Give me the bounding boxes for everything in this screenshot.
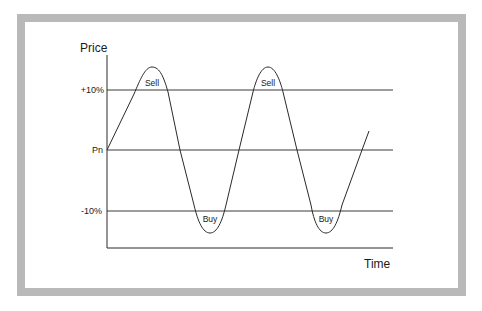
buy-annotation-1: Buy [203,214,218,224]
lower-level-label: -10% [81,206,102,216]
price-cycle-diagram: Price Time +10% Pn -10% Sell Sell Buy Bu… [0,0,482,311]
sell-annotation-1: Sell [145,78,159,88]
x-axis-label: Time [364,257,391,271]
sell-annotation-2: Sell [261,78,275,88]
y-axis-label: Price [80,41,108,55]
upper-level-label: +10% [81,85,104,95]
middle-level-label: Pn [92,145,103,155]
buy-annotation-2: Buy [319,214,334,224]
